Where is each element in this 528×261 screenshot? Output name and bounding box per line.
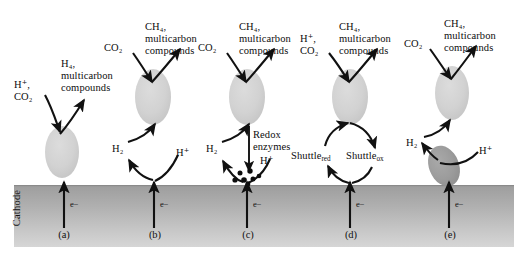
microbe-cell-b: [135, 69, 171, 125]
electron-label-a: e−: [70, 199, 79, 209]
arrow-cathode-to-shuttle-red-d: [328, 166, 349, 183]
panel-e-output-line3: compounds: [444, 42, 493, 54]
arrow-h2-uptake-e: [424, 120, 450, 137]
arrow-shuttle-ox-to-cathode-d: [352, 167, 372, 183]
panel-letter-a: (a): [49, 229, 79, 240]
panel-c-output-line3: compounds: [239, 45, 288, 57]
panel-c-output-line2: multicarbon: [239, 33, 291, 45]
electron-label-e: e−: [455, 199, 464, 209]
arrow-h2-formation-b: [129, 160, 153, 180]
panel-b-proton: H⁺: [176, 147, 189, 159]
panel-letter-e: (e): [435, 229, 465, 240]
panel-d-output-line2: multicarbon: [339, 33, 391, 45]
panel-e-output-line1: CH₄,: [444, 18, 465, 30]
panel-b-output-line3: compounds: [145, 45, 194, 57]
panel-e-output-line2: multicarbon: [444, 30, 496, 42]
panel-d-input-line1: H⁺,: [300, 33, 316, 45]
electron-label-d: e−: [356, 199, 365, 209]
panel-e-proton: H⁺: [479, 145, 492, 157]
panel-e-mediator: H₂: [406, 137, 417, 149]
panel-e-input: CO₂: [404, 38, 423, 50]
arrow-proton-in-b: [155, 155, 178, 181]
microbe-cell-c: [229, 69, 265, 125]
electron-label-c: e−: [253, 199, 262, 209]
microbe-cell-e-lower: [422, 141, 466, 191]
panel-letter-d: (d): [336, 229, 366, 240]
arrow-shuttle-ox-out-d: [350, 123, 375, 148]
arrow-h2-uptake-b: [128, 124, 155, 142]
shuttle-reduced-base: Shuttle: [291, 150, 321, 161]
arrow-product-out-a: [60, 100, 84, 134]
panel-a-output-line2: multicarbon: [61, 70, 113, 82]
figure-root: Cathode H⁺, CO₂ H₄, multicarbon compound…: [0, 0, 528, 261]
panel-d-output-line1: CH₄,: [339, 21, 360, 33]
arrow-substrate-in-a: [45, 95, 60, 132]
panel-c-output-line1: CH₄,: [239, 21, 260, 33]
panel-d-output-line3: compounds: [339, 45, 388, 57]
panel-b-output-line1: CH₄,: [145, 21, 166, 33]
panel-c-enzyme-line2: enzymes: [253, 141, 290, 153]
panel-d-shuttle-reduced: Shuttlered: [291, 150, 331, 165]
panel-letter-b: (b): [140, 229, 170, 240]
panel-a-output-line3: compounds: [61, 82, 110, 94]
panel-c-proton: H⁺: [260, 155, 273, 167]
panel-c-enzyme-line1: Redox: [253, 129, 281, 141]
electron-label-b: e−: [160, 199, 169, 209]
panel-a-input-line1: H⁺,: [14, 79, 30, 91]
panel-b-input: CO₂: [104, 42, 123, 54]
panel-d-shuttle-oxidised: Shuttleox: [346, 150, 384, 165]
panel-c-input: CO₂: [198, 42, 217, 54]
arrow-h2-uptake-c: [222, 124, 249, 142]
panel-c-mediator: H₂: [206, 143, 217, 155]
panel-b-mediator: H₂: [112, 143, 123, 155]
microbe-cell-d: [332, 69, 368, 125]
shuttle-oxidised-base: Shuttle: [346, 150, 376, 161]
panel-a-input-line2: CO₂: [14, 91, 33, 103]
panel-letter-c: (c): [233, 229, 263, 240]
cathode-label: Cathode: [11, 178, 22, 238]
shuttle-oxidised-subscript: ox: [376, 155, 383, 163]
arrow-shuttle-red-in-d: [325, 123, 348, 146]
panel-b-output-line2: multicarbon: [145, 33, 197, 45]
shuttle-reduced-subscript: red: [321, 155, 330, 163]
microbe-cell-e-upper: [435, 66, 469, 120]
panel-a-output-line1: H₄,: [61, 58, 75, 70]
microbe-cell-a: [45, 126, 79, 178]
panel-d-input-line2: CO₂: [300, 45, 319, 57]
